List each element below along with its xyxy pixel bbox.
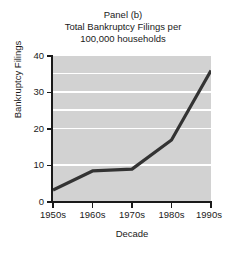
- data-line: [53, 56, 211, 202]
- y-tick-30: [47, 92, 52, 94]
- x-tick-1950s: [52, 203, 54, 208]
- y-tick-40: [47, 55, 52, 57]
- chart-figure: Panel (b) Total Bankruptcy Filings per 1…: [0, 0, 233, 261]
- y-tick-label-10: 10: [0, 159, 44, 170]
- y-tick-label-0: 0: [0, 196, 44, 207]
- plot-area: [53, 56, 211, 202]
- x-tick-1980s: [171, 203, 173, 208]
- x-tick-label-1990s: 1990s: [184, 209, 233, 220]
- y-tick-20: [47, 128, 52, 130]
- chart-title-line-2: Total Bankruptcy Filings per: [28, 21, 218, 33]
- y-axis-label: Bankruptcy Filings: [12, 25, 23, 135]
- x-tick-1970s: [131, 203, 133, 208]
- x-axis-label: Decade: [53, 228, 211, 239]
- y-tick-0: [47, 201, 52, 203]
- x-tick-1960s: [92, 203, 94, 208]
- chart-title: Panel (b) Total Bankruptcy Filings per 1…: [28, 9, 218, 46]
- chart-title-line-3: 100,000 households: [28, 33, 218, 45]
- x-tick-1990s: [210, 203, 212, 208]
- chart-title-line-1: Panel (b): [28, 9, 218, 21]
- y-tick-10: [47, 165, 52, 167]
